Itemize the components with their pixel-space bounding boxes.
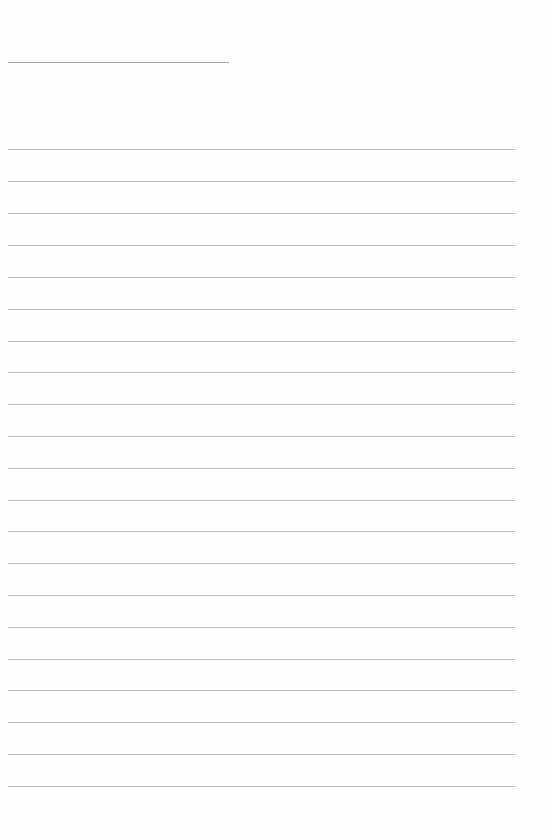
ruled-line	[8, 659, 515, 660]
title-line	[8, 62, 229, 63]
ruled-line	[8, 563, 515, 564]
ruled-line	[8, 341, 515, 342]
ruled-line	[8, 436, 515, 437]
ruled-line	[8, 309, 515, 310]
ruled-line	[8, 245, 515, 246]
ruled-line	[8, 595, 515, 596]
ruled-line	[8, 181, 515, 182]
ruled-line	[8, 468, 515, 469]
ruled-line	[8, 500, 515, 501]
ruled-line	[8, 627, 515, 628]
ruled-line	[8, 213, 515, 214]
ruled-line	[8, 277, 515, 278]
ruled-line	[8, 786, 515, 787]
ruled-line	[8, 149, 515, 150]
ruled-line	[8, 754, 515, 755]
lined-page	[0, 0, 547, 836]
ruled-line	[8, 531, 515, 532]
ruled-line	[8, 372, 515, 373]
ruled-line	[8, 404, 515, 405]
ruled-line	[8, 722, 515, 723]
ruled-line	[8, 690, 515, 691]
